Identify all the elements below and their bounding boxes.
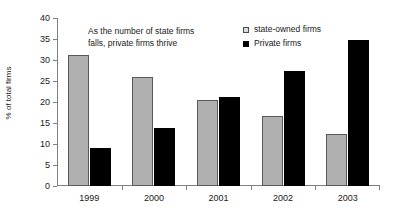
bar-state-owned xyxy=(197,100,218,186)
x-tick-mark xyxy=(251,186,252,190)
annotation-line-1: As the number of state firms xyxy=(88,26,223,38)
bar-private xyxy=(90,148,111,186)
x-tick-mark xyxy=(122,186,123,190)
plot-area: 40 35 30 25 20 15 10 5 0 As the number o… xyxy=(57,18,380,186)
bar-private xyxy=(284,71,305,186)
y-tick-label: 25 xyxy=(40,77,57,86)
annotation-line-2: falls, private firms thrive xyxy=(88,38,223,50)
x-tick-mark xyxy=(379,186,380,190)
x-axis-labels: 19992000200120022003 xyxy=(57,192,380,204)
y-tick-label: 35 xyxy=(40,35,57,44)
chart-annotation: As the number of state firms falls, priv… xyxy=(88,26,223,49)
legend-swatch-state-owned-icon xyxy=(243,27,249,33)
y-tick-label: 10 xyxy=(40,140,57,149)
y-tick-label: 15 xyxy=(40,119,57,128)
x-tick-label: 2002 xyxy=(251,192,316,204)
legend-label-state-owned: state-owned firms xyxy=(254,24,321,35)
bar-private xyxy=(219,97,240,186)
y-tick-label: 0 xyxy=(45,182,57,191)
bar-private xyxy=(154,128,175,186)
x-tick-mark xyxy=(186,186,187,190)
bar-chart: % of total firms 40 35 30 25 20 15 10 5 … xyxy=(0,0,404,223)
x-tick-label: 1999 xyxy=(57,192,122,204)
bar-state-owned xyxy=(262,116,283,186)
bar-state-owned xyxy=(132,77,153,186)
y-axis-title: % of total firms xyxy=(2,0,16,186)
y-tick-label: 5 xyxy=(45,161,57,170)
y-tick-label: 40 xyxy=(40,14,57,23)
x-tick-label: 2000 xyxy=(122,192,187,204)
x-tick-label: 2003 xyxy=(315,192,380,204)
bar-state-owned xyxy=(68,55,89,186)
y-tick-label: 20 xyxy=(40,98,57,107)
bar-state-owned xyxy=(326,134,347,186)
x-tick-mark xyxy=(315,186,316,190)
legend-swatch-private-icon xyxy=(243,41,249,47)
legend-item-state-owned: state-owned firms xyxy=(243,24,321,35)
chart-legend: state-owned firms Private firms xyxy=(243,24,321,52)
legend-item-private: Private firms xyxy=(243,38,321,49)
x-tick-label: 2001 xyxy=(186,192,251,204)
legend-label-private: Private firms xyxy=(254,38,301,49)
bar-group xyxy=(315,18,380,186)
y-tick-label: 30 xyxy=(40,56,57,65)
bar-private xyxy=(348,40,369,186)
